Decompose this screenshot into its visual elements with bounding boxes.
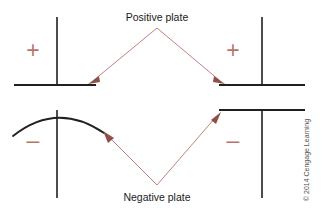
positive-plate-arrow-right [157,28,225,84]
copyright-credit: © 2014 Cengage Learning [303,119,311,201]
positive-plate-label: Positive plate [126,11,189,23]
negative-plate-label: Negative plate [123,191,190,203]
left-plus-sign: + [26,37,39,63]
arrowhead-left-bottom [103,131,114,143]
capacitor-polarity-diagram: + – + – Positive plate Negative plate © … [0,0,321,214]
negative-plate-arrow-right [157,112,221,185]
arrowhead-left-top [88,76,100,84]
negative-plate-arrow-left [103,131,157,185]
right-minus-sign: – [227,127,240,153]
arrowhead-right-bottom [211,112,221,124]
left-minus-sign: – [27,127,40,153]
arrowhead-right-top [213,76,225,84]
positive-plate-arrow-left [88,28,157,84]
right-plus-sign: + [226,37,239,63]
